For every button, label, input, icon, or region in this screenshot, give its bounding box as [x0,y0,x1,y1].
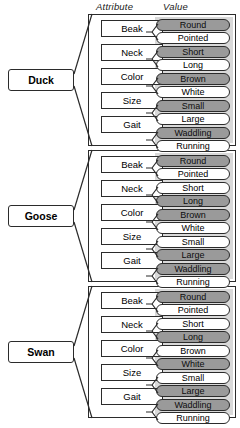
value-pill[interactable]: White [156,222,230,234]
branch-connector-icon [146,182,158,209]
branch-connector-icon [146,127,158,154]
value-group: SmallLarge [156,100,232,125]
value-group: SmallLarge [156,236,232,261]
value-group: WaddlingRunning [156,263,232,288]
value-pill-selected[interactable]: Round [156,19,230,31]
value-group: ShortLong [156,318,232,343]
branch-connector-icon [146,399,158,426]
branch-connector-icon [146,46,158,73]
branch-connector-icon [146,263,158,290]
branch-connector-icon [146,372,158,399]
value-group: RoundPointed [156,291,232,316]
value-pill[interactable]: Pointed [156,304,230,316]
value-pill[interactable]: Pointed [156,32,230,44]
value-pill[interactable]: Running [156,412,230,424]
value-pill[interactable]: Short [156,318,230,330]
value-pill-selected[interactable]: Waddling [156,127,230,139]
branch-connector-icon [146,318,158,345]
value-pill-selected[interactable]: White [156,358,230,370]
value-group: RoundPointed [156,19,232,44]
branch-connector-icon [146,100,158,127]
branch-connector-icon [146,73,158,100]
branch-connector-icon [146,291,158,318]
value-column-header: Value [163,1,188,12]
class-panel: BeakNeckColorSizeGaitRoundPointedShortLo… [88,150,236,282]
class-label-box[interactable]: Swan [8,341,74,363]
attribute-column-header: Attribute [96,1,133,12]
value-group: BrownWhite [156,73,232,98]
value-pill[interactable]: Small [156,372,230,384]
value-pill-selected[interactable]: Round [156,155,230,167]
value-pill-selected[interactable]: Waddling [156,263,230,275]
value-group: BrownWhite [156,209,232,234]
branch-connector-icon [146,155,158,182]
value-group: ShortLong [156,182,232,207]
value-column: RoundPointedShortLongBrownWhiteSmallLarg… [156,291,232,426]
value-column: RoundPointedShortLongBrownWhiteSmallLarg… [156,19,232,154]
value-pill[interactable]: Brown [156,345,230,357]
value-pill-selected[interactable]: Brown [156,73,230,85]
value-group: WaddlingRunning [156,127,232,152]
value-pill[interactable]: Long [156,59,230,71]
class-panel: BeakNeckColorSizeGaitRoundPointedShortLo… [88,286,236,418]
branch-connector-icon [146,345,158,372]
value-pill[interactable]: Running [156,140,230,152]
value-pill[interactable]: White [156,86,230,98]
class-label-box[interactable]: Goose [8,205,74,227]
value-pill-selected[interactable]: Round [156,291,230,303]
value-group: WaddlingRunning [156,399,232,424]
value-group: SmallLarge [156,372,232,397]
value-pill-selected[interactable]: Brown [156,209,230,221]
value-pill-selected[interactable]: Large [156,249,230,261]
value-pill[interactable]: Small [156,236,230,248]
value-pill-selected[interactable]: Short [156,46,230,58]
value-pill-selected[interactable]: Large [156,385,230,397]
value-pill[interactable]: Pointed [156,168,230,180]
value-group: ShortLong [156,46,232,71]
value-pill[interactable]: Running [156,276,230,288]
branch-connector-icon [146,236,158,263]
class-label-box[interactable]: Duck [8,69,74,91]
value-group: RoundPointed [156,155,232,180]
branch-connector-icon [146,19,158,46]
value-group: BrownWhite [156,345,232,370]
class-panel: BeakNeckColorSizeGaitRoundPointedShortLo… [88,14,236,146]
branch-connector-icon [146,209,158,236]
column-headers: Attribute Value [0,0,240,14]
value-pill-selected[interactable]: Small [156,100,230,112]
value-pill-selected[interactable]: Long [156,331,230,343]
value-pill-selected[interactable]: Long [156,195,230,207]
value-pill[interactable]: Short [156,182,230,194]
value-pill[interactable]: Large [156,113,230,125]
value-pill-selected[interactable]: Waddling [156,399,230,411]
value-column: RoundPointedShortLongBrownWhiteSmallLarg… [156,155,232,290]
